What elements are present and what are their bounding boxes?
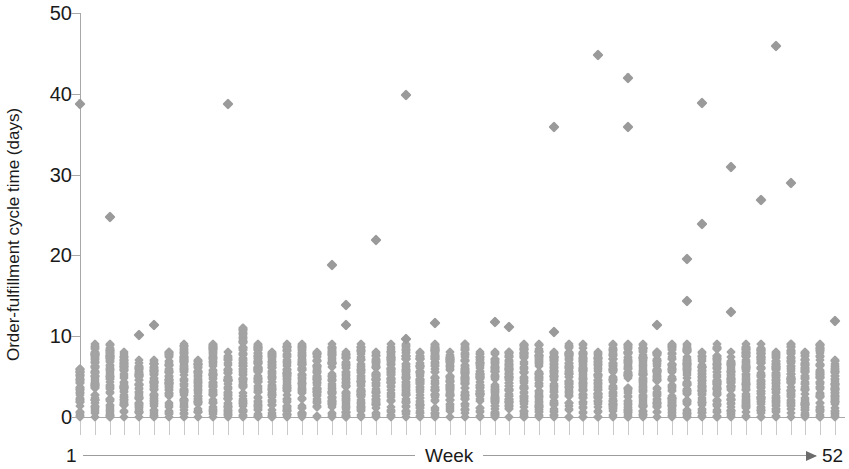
y-axis-tick-label: 0 <box>28 407 72 427</box>
y-axis-tick-mark <box>71 13 80 14</box>
data-point <box>696 97 707 108</box>
plot-area <box>80 0 849 469</box>
data-point <box>785 178 796 189</box>
x-axis-start-label: 1 <box>60 445 83 467</box>
data-point <box>548 121 559 132</box>
data-point <box>341 300 352 311</box>
data-point <box>755 194 766 205</box>
data-point <box>829 315 840 326</box>
data-point <box>193 412 203 422</box>
data-point <box>622 73 633 84</box>
y-axis-tick-labels: 50403020100 <box>20 0 72 469</box>
y-axis-tick-label: 20 <box>28 245 72 265</box>
y-axis-line <box>80 13 81 418</box>
data-point <box>400 90 411 101</box>
data-point <box>741 412 751 422</box>
data-point <box>652 412 662 422</box>
data-point <box>148 319 159 330</box>
data-point <box>770 40 781 51</box>
data-point <box>222 99 233 110</box>
data-point <box>326 259 337 270</box>
data-point <box>445 412 455 422</box>
data-point <box>504 321 515 332</box>
chart-canvas: Order-fulfillment cycle time (days) 5040… <box>0 0 849 469</box>
data-point <box>134 329 145 340</box>
x-axis-title: Week <box>415 445 483 467</box>
y-axis-tick-mark <box>71 255 80 256</box>
y-axis-tick-label: 30 <box>28 165 72 185</box>
data-point <box>592 49 603 60</box>
x-axis-end-label: 52 <box>816 445 849 467</box>
data-point <box>341 319 352 330</box>
data-point <box>74 99 85 110</box>
data-point <box>548 326 559 337</box>
data-point <box>622 121 633 132</box>
y-axis-tick-mark <box>71 94 80 95</box>
data-point <box>504 412 514 422</box>
y-axis-tick-label: 40 <box>28 84 72 104</box>
data-point <box>489 317 500 328</box>
x-axis-rule-right-with-arrow <box>483 455 816 456</box>
data-point <box>681 253 692 264</box>
data-point <box>564 412 574 422</box>
y-axis-tick-mark <box>71 175 80 176</box>
data-point <box>370 234 381 245</box>
data-point <box>104 212 115 223</box>
data-point <box>726 162 737 173</box>
y-axis-tick-label: 50 <box>28 3 72 23</box>
data-point <box>726 306 737 317</box>
y-axis-tick-mark <box>71 336 80 337</box>
data-point <box>119 412 129 422</box>
data-point <box>652 319 663 330</box>
data-point <box>593 412 603 422</box>
x-axis-annotation: 1 Week 52 <box>60 442 849 469</box>
y-axis-tick-label: 10 <box>28 326 72 346</box>
data-point <box>681 295 692 306</box>
x-axis-rule-left <box>83 455 416 456</box>
data-point <box>430 318 441 329</box>
data-point <box>696 218 707 229</box>
